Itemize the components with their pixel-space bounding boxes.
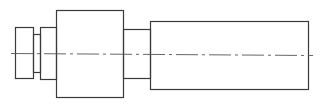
end-collar <box>16 28 34 79</box>
shaft-drawing <box>0 0 320 104</box>
drawing-canvas <box>0 0 320 104</box>
